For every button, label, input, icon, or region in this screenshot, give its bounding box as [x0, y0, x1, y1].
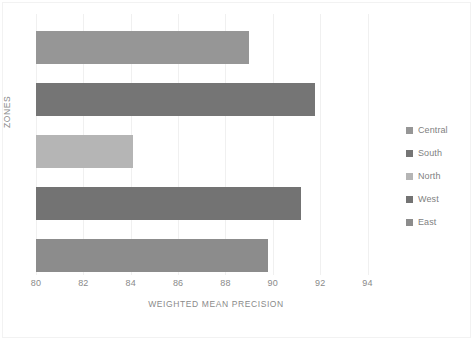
legend-swatch-icon [406, 219, 413, 226]
legend-item-west[interactable]: West [406, 189, 470, 209]
x-tick-label: 84 [126, 278, 136, 288]
legend-item-south[interactable]: South [406, 143, 470, 163]
bar-chart: 8082848688909294 WEIGHTED MEAN PRECISION… [0, 0, 473, 340]
x-tick-label: 94 [362, 278, 372, 288]
x-axis-tick-labels: 8082848688909294 [36, 278, 396, 294]
legend-item-north[interactable]: North [406, 166, 470, 186]
legend-item-east[interactable]: East [406, 212, 470, 232]
y-axis-title: ZONES [2, 96, 12, 128]
legend-label: North [418, 171, 441, 181]
legend-label: Central [418, 125, 448, 135]
plot-area [36, 14, 396, 275]
bar-east [36, 239, 268, 272]
x-axis-title: WEIGHTED MEAN PRECISION [36, 299, 396, 309]
legend-item-central[interactable]: Central [406, 120, 470, 140]
x-tick-label: 92 [315, 278, 325, 288]
bar-central [36, 31, 249, 64]
bar-west [36, 187, 301, 220]
bars-layer [36, 14, 396, 275]
x-tick-label: 88 [220, 278, 230, 288]
x-tick-label: 80 [31, 278, 41, 288]
x-tick-label: 86 [173, 278, 183, 288]
x-tick-label: 90 [268, 278, 278, 288]
legend-label: South [418, 148, 442, 158]
bar-south [36, 83, 315, 116]
legend-label: West [418, 194, 439, 204]
legend-swatch-icon [406, 196, 413, 203]
legend-swatch-icon [406, 127, 413, 134]
legend-swatch-icon [406, 173, 413, 180]
legend-label: East [418, 217, 436, 227]
x-tick-label: 82 [78, 278, 88, 288]
legend-swatch-icon [406, 150, 413, 157]
chart-legend: CentralSouthNorthWestEast [406, 120, 470, 235]
bar-north [36, 135, 133, 168]
